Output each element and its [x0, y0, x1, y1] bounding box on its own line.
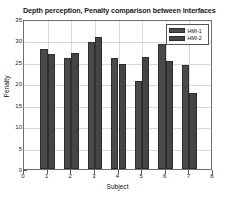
bar-hmi-1-subject-3	[88, 42, 95, 169]
chart-figure: Depth perception, Penalty comparison bet…	[0, 0, 228, 198]
x-axis-tick-label: 4	[111, 173, 125, 180]
bar-hmi-2-subject-1	[48, 54, 55, 169]
bar-hmi-1-subject-7	[182, 65, 189, 169]
bar-hmi-1-subject-4	[111, 58, 118, 169]
x-axis-tick-label: 0	[16, 173, 30, 180]
x-axis-tick-label: 8	[205, 173, 219, 180]
y-axis-tick-label: 15	[15, 103, 22, 109]
legend-item-hmi-1[interactable]: HMI-1	[169, 27, 206, 34]
legend-swatch-hmi-2	[169, 36, 185, 41]
x-axis-tick	[212, 170, 213, 174]
y-axis-tick-label: 35	[15, 17, 22, 23]
bar-hmi-1-subject-1	[40, 49, 47, 169]
x-axis-tick-label: 6	[158, 173, 172, 180]
y-axis-tick-label: 5	[19, 146, 22, 152]
legend-label-hmi-1: HMI-1	[188, 28, 202, 34]
x-axis-tick	[188, 170, 189, 174]
x-axis-tick	[94, 170, 95, 174]
chart-legend: HMI-1HMI-2	[166, 24, 209, 45]
legend-swatch-hmi-1	[169, 28, 185, 33]
x-axis-tick	[70, 170, 71, 174]
x-axis-tick-label: 5	[134, 173, 148, 180]
y-axis-tick-label: 30	[15, 38, 22, 44]
y-axis-label: Penalty	[3, 65, 10, 109]
bar-hmi-2-subject-3	[95, 37, 102, 169]
y-axis-tick-label: 10	[15, 124, 22, 130]
bar-hmi-2-subject-4	[119, 64, 126, 169]
bar-hmi-1-subject-5	[135, 81, 142, 169]
bar-hmi-2-subject-2	[71, 53, 78, 169]
x-axis-tick-label: 3	[87, 173, 101, 180]
y-axis-tick-label: 25	[15, 60, 22, 66]
x-axis-label: Subject	[23, 183, 212, 190]
bar-hmi-1-subject-2	[64, 58, 71, 169]
x-axis-tick-label: 2	[63, 173, 77, 180]
x-axis-tick	[23, 170, 24, 174]
x-axis-tick	[47, 170, 48, 174]
x-axis-tick	[141, 170, 142, 174]
x-axis-tick	[118, 170, 119, 174]
x-axis-tick-label: 1	[40, 173, 54, 180]
bar-hmi-2-subject-5	[142, 57, 149, 169]
bar-hmi-1-subject-6	[158, 44, 165, 169]
legend-item-hmi-2[interactable]: HMI-2	[169, 35, 206, 42]
legend-label-hmi-2: HMI-2	[188, 35, 202, 41]
bar-hmi-2-subject-7	[189, 93, 196, 169]
chart-title: Depth perception, Penalty comparison bet…	[23, 6, 212, 15]
bar-hmi-2-subject-6	[166, 61, 173, 169]
x-axis-tick	[165, 170, 166, 174]
x-axis-tick-label: 7	[181, 173, 195, 180]
y-axis-tick-label: 20	[15, 81, 22, 87]
